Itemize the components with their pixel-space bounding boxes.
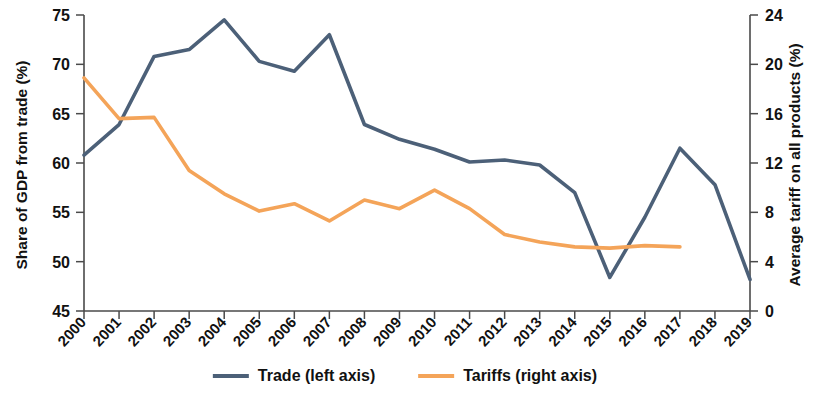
right-axis-tick-label: 16 [765, 106, 783, 123]
right-axis-tick-label: 20 [765, 56, 783, 73]
left-axis-tick-label: 50 [52, 254, 70, 271]
chart-figure: Share of GDP from trade (%) Average tari… [0, 0, 814, 397]
right-axis-tick-label: 0 [765, 303, 774, 320]
left-axis-tick-label: 65 [52, 106, 70, 123]
right-axis-ticks: 04812162024 [750, 7, 783, 320]
chart-legend: Trade (left axis)Tariffs (right axis) [213, 367, 597, 384]
right-axis-tick-label: 12 [765, 155, 783, 172]
x-axis-ticks: 2000200120022003200420052006200720082009… [54, 311, 755, 349]
right-axis-tick-label: 8 [765, 204, 774, 221]
left-axis-title: Share of GDP from trade (%) [13, 60, 30, 269]
left-axis-tick-label: 75 [52, 7, 70, 24]
series-line-tariffs [84, 78, 680, 248]
legend-label[interactable]: Tariffs (right axis) [463, 367, 597, 384]
right-axis-tick-label: 4 [765, 254, 774, 271]
left-axis-tick-label: 45 [52, 303, 70, 320]
right-axis-title: Average tariff on all products (%) [786, 43, 803, 286]
left-axis-tick-label: 70 [52, 56, 70, 73]
left-axis-tick-label: 60 [52, 155, 70, 172]
dual-axis-line-chart: Share of GDP from trade (%) Average tari… [0, 0, 814, 397]
series-layer [84, 20, 750, 280]
left-axis-ticks: 45505560657075 [52, 7, 84, 320]
series-line-trade [84, 20, 750, 280]
right-axis-tick-label: 24 [765, 7, 783, 24]
legend-label[interactable]: Trade (left axis) [258, 367, 375, 384]
left-axis-tick-label: 55 [52, 204, 70, 221]
